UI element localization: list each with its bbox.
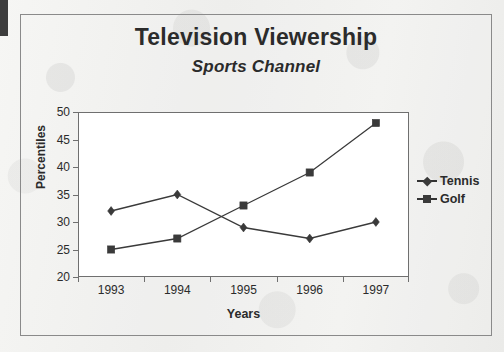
data-point-diamond xyxy=(174,190,181,199)
data-point-square xyxy=(306,169,313,176)
legend-label: Golf xyxy=(438,192,465,206)
legend-label: Tennis xyxy=(438,174,479,188)
x-tick-mark xyxy=(277,277,278,282)
x-tick-label: 1993 xyxy=(78,283,144,297)
x-tick-label: 1995 xyxy=(210,283,276,297)
plot-area xyxy=(78,112,409,277)
data-point-diamond xyxy=(240,223,247,232)
legend-item-tennis[interactable]: Tennis xyxy=(416,172,490,190)
x-tick-label: 1997 xyxy=(343,283,409,297)
y-tick-label: 35 xyxy=(44,189,70,201)
y-tick-label: 30 xyxy=(44,216,70,228)
y-tick-label: 50 xyxy=(44,106,70,118)
chart-title: Television Viewership xyxy=(20,24,492,51)
data-point-diamond xyxy=(108,207,115,216)
y-tick-label: 40 xyxy=(44,161,70,173)
x-tick-mark xyxy=(343,277,344,282)
x-tick-label: 1996 xyxy=(277,283,343,297)
series-golf xyxy=(108,119,380,253)
data-point-square xyxy=(108,246,115,253)
y-tick-label: 45 xyxy=(44,134,70,146)
chart-subtitle: Sports Channel xyxy=(20,57,492,77)
y-tick-label: 25 xyxy=(44,244,70,256)
y-tick-label: 20 xyxy=(44,271,70,283)
x-tick-label: 1994 xyxy=(144,283,210,297)
data-point-diamond xyxy=(306,234,313,243)
scan-edge-artifact xyxy=(0,0,8,36)
legend-item-golf[interactable]: Golf xyxy=(416,190,490,208)
data-point-square xyxy=(372,119,379,126)
line-chart-svg xyxy=(79,113,408,276)
x-tick-mark xyxy=(408,277,409,282)
x-tick-mark xyxy=(144,277,145,282)
x-tick-mark xyxy=(210,277,211,282)
legend-marker-square-icon xyxy=(416,193,438,205)
x-axis-title: Years xyxy=(78,307,409,321)
data-point-square xyxy=(240,202,247,209)
data-point-square xyxy=(174,235,181,242)
x-tick-mark xyxy=(78,277,79,282)
data-point-diamond xyxy=(372,218,379,227)
legend-marker-diamond-icon xyxy=(416,175,438,187)
series-tennis xyxy=(108,190,380,243)
chart-legend: TennisGolf xyxy=(416,172,490,208)
